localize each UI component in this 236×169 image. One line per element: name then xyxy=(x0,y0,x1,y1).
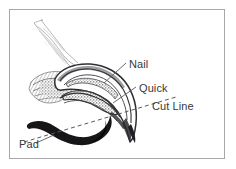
label-quick: Quick xyxy=(139,82,168,94)
leg-shaft-sketch xyxy=(34,20,78,66)
claw-diagram-canvas: Nail Quick Cut Line Pad xyxy=(0,0,236,169)
label-pad: Pad xyxy=(19,138,39,150)
label-cut-line: Cut Line xyxy=(152,100,194,112)
claw-diagram-figure: Nail Quick Cut Line Pad xyxy=(0,0,236,169)
label-nail: Nail xyxy=(129,58,148,70)
